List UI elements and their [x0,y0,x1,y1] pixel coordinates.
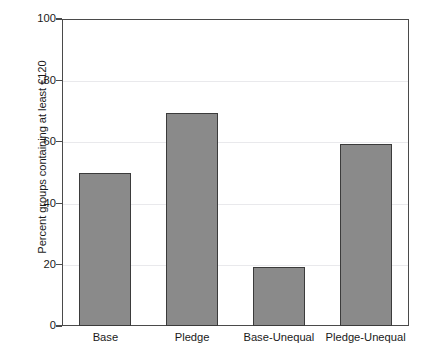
bar-chart: Percent groups containing at least €120 … [0,0,433,363]
x-axis-tick-label-pledge: Pledge [149,330,236,344]
bar-base [79,173,131,326]
y-axis-tick-label-60: 60 [36,136,56,147]
y-axis-tick-label-80: 80 [36,75,56,86]
bars-layer [62,19,409,326]
y-axis-tick-label-20: 20 [36,259,56,270]
y-axis-tick-label-100: 100 [36,13,56,24]
y-axis-tick-label-0: 0 [36,320,56,331]
bar-pledge [166,113,218,326]
y-axis-tick-labels: 100806040200 [36,0,56,363]
bar-base-unequal [253,267,305,326]
x-axis-tick-label-base: Base [62,330,149,344]
bar-pledge-unequal [340,144,392,326]
y-axis-tick-label-40: 40 [36,198,56,209]
x-axis-tick-label-base-unequal: Base-Unequal [236,330,323,344]
x-axis-tick-labels: BasePledgeBase-UnequalPledge-Unequal [62,330,409,348]
x-axis-tick-label-pledge-unequal: Pledge-Unequal [322,330,409,344]
